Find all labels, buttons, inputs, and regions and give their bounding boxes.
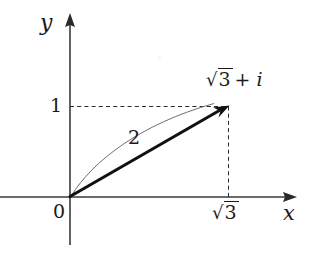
x-tick-label-sqrt3: √3 xyxy=(211,203,238,222)
point-radicand-value: 3 xyxy=(218,70,232,89)
x-axis-label: x xyxy=(283,203,295,224)
y-tick-label-1: 1 xyxy=(50,96,62,115)
radical-sign-group: √3 xyxy=(211,203,238,222)
scan-speck xyxy=(158,56,161,59)
radicand-value: 3 xyxy=(224,203,238,222)
modulus-length-label: 2 xyxy=(128,128,140,147)
point-label-suffix: + i xyxy=(232,68,263,90)
diagram-canvas xyxy=(0,0,314,271)
y-axis-label: y xyxy=(40,12,52,34)
radical-sign-glyph: √ xyxy=(212,202,224,223)
point-label-sqrt3-plus-i: √3+ i xyxy=(205,70,263,89)
point-radical-sign-group: √3 xyxy=(205,70,232,89)
point-radical-sign-glyph: √ xyxy=(206,69,218,90)
argand-diagram-figure: y x 0 1 √3 2 √3+ i xyxy=(0,0,314,271)
complex-number-vector xyxy=(70,109,222,197)
y-axis-arrowhead xyxy=(65,13,75,27)
origin-label: 0 xyxy=(53,202,65,221)
